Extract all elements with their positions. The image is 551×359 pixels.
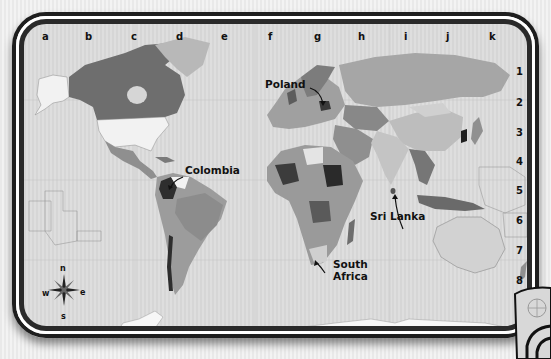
compass-east: e bbox=[80, 288, 85, 297]
column-label-k: k bbox=[489, 31, 496, 42]
row-label-6: 6 bbox=[516, 215, 523, 226]
alaska bbox=[35, 75, 69, 115]
label-south-africa: South Africa bbox=[333, 258, 368, 282]
label-south-africa-line1: South bbox=[333, 258, 368, 270]
column-label-b: b bbox=[85, 31, 92, 42]
column-label-h: h bbox=[358, 31, 365, 42]
caribbean bbox=[155, 157, 175, 163]
antarctica-east bbox=[295, 319, 515, 331]
south-africa-arrow bbox=[317, 263, 325, 273]
madagascar bbox=[347, 219, 355, 245]
label-sri-lanka: Sri Lanka bbox=[370, 210, 425, 222]
column-label-d: d bbox=[176, 31, 183, 42]
korea bbox=[461, 129, 467, 143]
row-label-3: 3 bbox=[516, 127, 523, 138]
compass-star-icon bbox=[44, 270, 84, 310]
column-label-c: c bbox=[131, 31, 137, 42]
row-label-8: 8 bbox=[516, 275, 523, 286]
column-label-j: j bbox=[446, 31, 449, 42]
compass-rose bbox=[44, 270, 84, 310]
australia bbox=[433, 217, 505, 273]
central-asia bbox=[343, 105, 389, 131]
indonesia bbox=[417, 195, 485, 211]
row-label-4: 4 bbox=[516, 156, 523, 167]
compass-south: s bbox=[61, 312, 66, 321]
column-label-i: i bbox=[404, 31, 407, 42]
japan bbox=[471, 117, 483, 145]
column-label-f: f bbox=[268, 31, 272, 42]
label-colombia: Colombia bbox=[185, 164, 240, 176]
page-curl-compass-badge[interactable] bbox=[511, 286, 551, 359]
compass-west: w bbox=[42, 289, 49, 298]
russia bbox=[339, 53, 510, 107]
map-canvas bbox=[19, 19, 532, 331]
column-label-a: a bbox=[42, 31, 49, 42]
column-label-g: g bbox=[314, 31, 321, 42]
compass-north: n bbox=[60, 264, 66, 273]
label-south-africa-line2: Africa bbox=[333, 270, 368, 282]
sri-lanka-shape bbox=[391, 188, 396, 194]
southeast-asia bbox=[409, 149, 435, 185]
antarctica bbox=[115, 311, 165, 331]
row-label-2: 2 bbox=[516, 97, 523, 108]
label-poland: Poland bbox=[265, 78, 306, 90]
hudson-bay bbox=[127, 86, 147, 104]
world-map bbox=[24, 24, 532, 331]
row-label-7: 7 bbox=[516, 245, 523, 256]
row-label-5: 5 bbox=[516, 185, 523, 196]
column-label-e: e bbox=[221, 31, 228, 42]
row-label-1: 1 bbox=[516, 66, 523, 77]
